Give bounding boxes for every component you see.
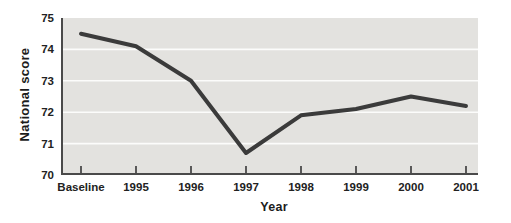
figure: Baseline19951996199719981999200020017071… — [0, 0, 511, 223]
y-tick-label: 71 — [41, 138, 54, 150]
x-tick-label: 1997 — [233, 181, 259, 193]
x-tick-label: 1995 — [123, 181, 149, 193]
y-tick-label: 74 — [41, 43, 54, 55]
y-tick-label: 75 — [41, 12, 54, 24]
x-tick-label: 1998 — [288, 181, 314, 193]
x-tick-label: 2001 — [453, 181, 479, 193]
x-tick-label: 2000 — [398, 181, 424, 193]
y-tick-label: 73 — [41, 75, 54, 87]
x-axis-title: Year — [66, 200, 482, 214]
x-tick-label: 1999 — [343, 181, 369, 193]
y-tick-label: 72 — [41, 106, 54, 118]
line-chart: Baseline19951996199719981999200020017071… — [0, 0, 511, 223]
y-axis-title: National score — [17, 35, 32, 155]
x-tick-label: Baseline — [57, 181, 104, 193]
y-tick-label: 70 — [41, 169, 54, 181]
x-tick-label: 1996 — [178, 181, 204, 193]
